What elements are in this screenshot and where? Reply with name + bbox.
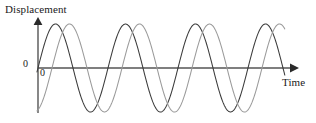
displacement-time-wave-figure: Displacement Time 0 0 <box>0 0 316 123</box>
x-axis-arrowhead-icon <box>290 64 299 73</box>
x-axis-zero-tick-label: 0 <box>40 67 45 78</box>
y-axis-zero-tick-label: 0 <box>23 58 28 69</box>
x-axis-title: Time <box>282 76 305 88</box>
y-axis-title: Displacement <box>5 3 67 15</box>
wave-plot-canvas <box>0 0 316 123</box>
y-axis-arrowhead-icon <box>34 17 43 25</box>
